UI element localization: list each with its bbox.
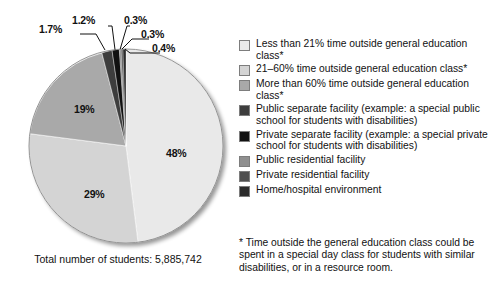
pie-chart-svg xyxy=(8,6,230,250)
legend-label-less-than-21: Less than 21% time outside general educa… xyxy=(256,38,495,61)
pie-chart-figure: 48% 29% 19% 1.7% 1.2% 0.3% 0.3% 0.4% Tot… xyxy=(0,0,495,285)
pie-panel: 48% 29% 19% 1.7% 1.2% 0.3% 0.3% 0.4% Tot… xyxy=(0,0,236,285)
legend-label-private-separate-facility: Private separate facility (example: a sp… xyxy=(256,129,495,152)
pie-callout-label-1-2: 1.2% xyxy=(72,14,95,26)
pie-value-label-19: 19% xyxy=(74,103,94,115)
pie-value-label-48: 48% xyxy=(166,147,186,159)
chart-legend: Less than 21% time outside general educa… xyxy=(239,38,495,199)
legend-swatch-public-residential-facility xyxy=(239,156,250,167)
legend-item-public-residential-facility: Public residential facility xyxy=(239,154,495,167)
legend-item-private-separate-facility: Private separate facility (example: a sp… xyxy=(239,129,495,152)
pie-callout-label-0-3-a: 0.3% xyxy=(124,14,147,26)
legend-label-public-separate-facility: Public separate facility (example: a spe… xyxy=(256,103,495,126)
legend-swatch-private-residential-facility xyxy=(239,171,250,182)
legend-label-more-than-60: More than 60% time outside general educa… xyxy=(256,78,495,101)
pie-callout-label-0-4: 0.4% xyxy=(152,42,175,54)
legend-swatch-less-than-21 xyxy=(239,40,250,51)
total-students-caption: Total number of students: 5,885,742 xyxy=(0,253,236,265)
legend-item-21-to-60: 21–60% time outside general education cl… xyxy=(239,63,495,76)
legend-item-more-than-60: More than 60% time outside general educa… xyxy=(239,78,495,101)
legend-swatch-private-separate-facility xyxy=(239,131,250,142)
legend-label-21-to-60: 21–60% time outside general education cl… xyxy=(256,63,467,75)
pie-callout-label-1-7: 1.7% xyxy=(39,23,62,35)
legend-label-private-residential-facility: Private residential facility xyxy=(256,169,369,181)
legend-label-home-hospital-environment: Home/hospital environment xyxy=(256,184,381,196)
legend-item-public-separate-facility: Public separate facility (example: a spe… xyxy=(239,103,495,126)
legend-item-private-residential-facility: Private residential facility xyxy=(239,169,495,182)
legend-swatch-21-to-60 xyxy=(239,65,250,76)
pie-slice-less-than-21 xyxy=(126,49,223,242)
pie-value-label-29: 29% xyxy=(84,188,104,200)
legend-label-public-residential-facility: Public residential facility xyxy=(256,154,365,166)
legend-item-home-hospital-environment: Home/hospital environment xyxy=(239,184,495,197)
legend-swatch-public-separate-facility xyxy=(239,105,250,116)
legend-swatch-more-than-60 xyxy=(239,80,250,91)
chart-footnote: * Time outside the general education cla… xyxy=(239,237,491,274)
legend-item-less-than-21: Less than 21% time outside general educa… xyxy=(239,38,495,61)
pie-callout-label-0-3-b: 0.3% xyxy=(141,28,164,40)
legend-swatch-home-hospital-environment xyxy=(239,186,250,197)
pie-slices xyxy=(29,49,223,243)
